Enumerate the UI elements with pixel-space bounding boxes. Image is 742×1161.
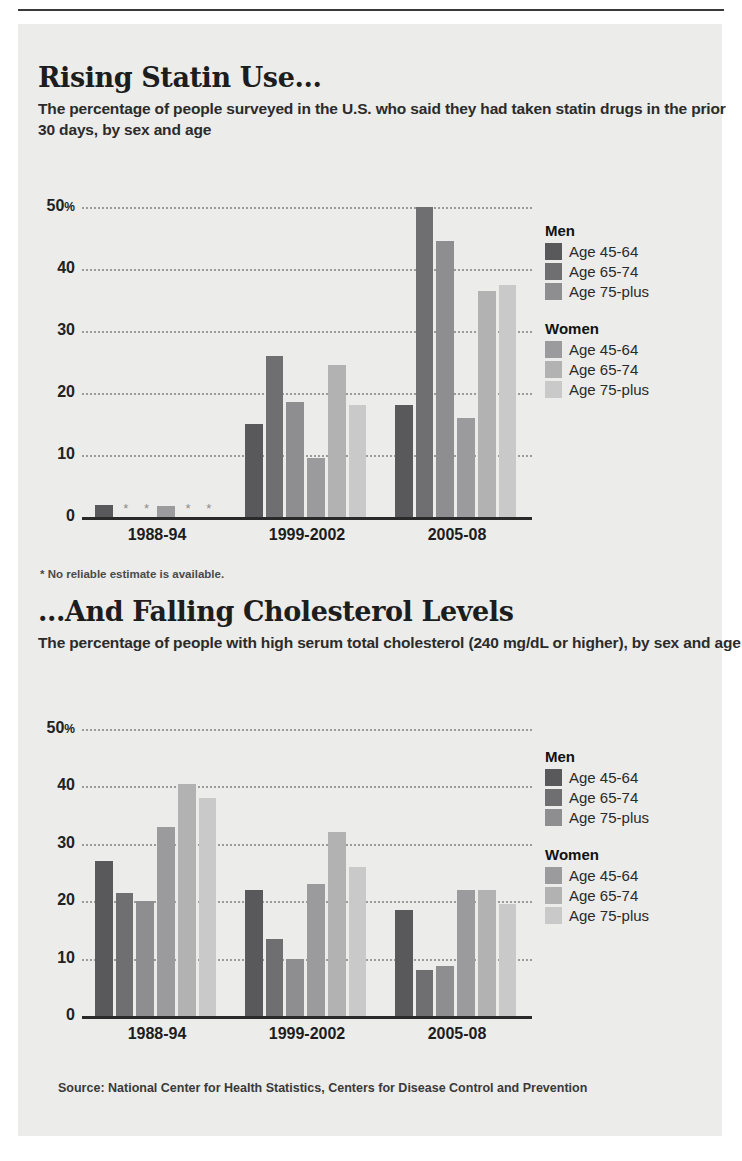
chart1-x-axis	[82, 517, 532, 520]
bar-1999-2002-men-age-75-plus	[286, 402, 304, 517]
legend-heading-women: Women	[545, 320, 649, 337]
y-axis-tick-40: 40	[57, 776, 82, 794]
y-axis-tick-0: 0	[66, 1006, 82, 1024]
legend-item-men-age-45-64[interactable]: Age 45-64	[545, 769, 649, 786]
bar-2005-08-women-age-45-64	[457, 418, 475, 517]
legend-swatch-icon	[545, 809, 562, 826]
legend-item-label: Age 65-74	[569, 263, 638, 280]
legend-item-women-age-45-64[interactable]: Age 45-64	[545, 867, 649, 884]
chart1-subtitle: The percentage of people surveyed in the…	[38, 98, 742, 141]
chart-cholesterol-levels: ...And Falling Cholesterol Levels The pe…	[38, 596, 742, 653]
bar-2005-08-women-age-65-74	[478, 890, 496, 1016]
bar-2005-08-men-age-65-74	[416, 207, 434, 517]
legend-swatch-icon	[545, 381, 562, 398]
bar-2005-08-men-age-65-74	[416, 970, 434, 1016]
x-axis-label-1999-2002: 1999-2002	[232, 1025, 382, 1043]
bar-1988-94-men-age-75-plus	[136, 901, 154, 1016]
bar-1999-2002-women-age-75-plus	[349, 867, 367, 1016]
legend-swatch-icon	[545, 867, 562, 884]
bar-2005-08-men-age-45-64	[395, 405, 413, 517]
x-axis-label-1999-2002: 1999-2002	[232, 526, 382, 544]
x-axis-label-2005-08: 2005-08	[382, 1025, 532, 1043]
bar-1999-2002-women-age-45-64	[307, 458, 325, 517]
legend-item-label: Age 45-64	[569, 867, 638, 884]
bar-2005-08-men-age-45-64	[395, 910, 413, 1016]
bar-1999-2002-men-age-45-64	[245, 890, 263, 1016]
bar-1999-2002-men-age-65-74	[266, 939, 284, 1016]
legend-item-label: Age 65-74	[569, 887, 638, 904]
legend-swatch-icon	[545, 263, 562, 280]
legend-swatch-icon	[545, 283, 562, 300]
legend-group-men: MenAge 45-64Age 65-74Age 75-plus	[545, 222, 649, 300]
legend-item-men-age-75-plus[interactable]: Age 75-plus	[545, 809, 649, 826]
legend-group-women: WomenAge 45-64Age 65-74Age 75-plus	[545, 320, 649, 398]
chart1-footnote: * No reliable estimate is available.	[40, 568, 224, 580]
legend-item-men-age-65-74[interactable]: Age 65-74	[545, 263, 649, 280]
legend-item-label: Age 75-plus	[569, 283, 649, 300]
legend-item-men-age-75-plus[interactable]: Age 75-plus	[545, 283, 649, 300]
y-axis-tick-40: 40	[57, 259, 82, 277]
legend-heading-women: Women	[545, 846, 649, 863]
legend-item-women-age-75-plus[interactable]: Age 75-plus	[545, 381, 649, 398]
legend-swatch-icon	[545, 789, 562, 806]
chart-statin-use: Rising Statin Use... The percentage of p…	[38, 62, 742, 141]
bar-2005-08-women-age-65-74	[478, 291, 496, 517]
legend-swatch-icon	[545, 887, 562, 904]
y-axis-tick-20: 20	[57, 891, 82, 909]
legend-item-label: Age 65-74	[569, 789, 638, 806]
legend-item-women-age-75-plus[interactable]: Age 75-plus	[545, 907, 649, 924]
y-axis-tick-30: 30	[57, 834, 82, 852]
legend-item-men-age-65-74[interactable]: Age 65-74	[545, 789, 649, 806]
legend-item-women-age-65-74[interactable]: Age 65-74	[545, 887, 649, 904]
y-axis-tick-50: 50%	[47, 197, 82, 215]
legend-item-women-age-45-64[interactable]: Age 45-64	[545, 341, 649, 358]
legend-heading-men: Men	[545, 748, 649, 765]
x-axis-label-1988-94: 1988-94	[82, 526, 232, 544]
chart1-plot-area: 01020304050% ****	[82, 207, 532, 520]
chart1-title: Rising Statin Use...	[38, 62, 742, 93]
chart2-x-axis	[82, 1016, 532, 1019]
chart1-legend: MenAge 45-64Age 65-74Age 75-plusWomenAge…	[545, 222, 649, 401]
legend-swatch-icon	[545, 769, 562, 786]
legend-swatch-icon	[545, 907, 562, 924]
legend-item-label: Age 75-plus	[569, 809, 649, 826]
chart2-subtitle: The percentage of people with high serum…	[38, 632, 742, 653]
bar-1999-2002-men-age-45-64	[245, 424, 263, 517]
legend-item-women-age-65-74[interactable]: Age 65-74	[545, 361, 649, 378]
legend-item-men-age-45-64[interactable]: Age 45-64	[545, 243, 649, 260]
bar-1988-94-women-age-45-64	[157, 827, 175, 1016]
bar-1988-94-women-age-45-64	[157, 506, 175, 517]
chart2-legend: MenAge 45-64Age 65-74Age 75-plusWomenAge…	[545, 748, 649, 927]
missing-estimate-marker: *	[199, 502, 220, 515]
bar-1999-2002-men-age-75-plus	[286, 959, 304, 1016]
bar-1988-94-women-age-65-74	[178, 784, 196, 1016]
legend-item-label: Age 75-plus	[569, 381, 649, 398]
x-axis-label-2005-08: 2005-08	[382, 526, 532, 544]
legend-swatch-icon	[545, 243, 562, 260]
bar-1999-2002-women-age-65-74	[328, 832, 346, 1016]
legend-group-men: MenAge 45-64Age 65-74Age 75-plus	[545, 748, 649, 826]
chart2-source: Source: National Center for Health Stati…	[58, 1081, 587, 1095]
y-axis-tick-30: 30	[57, 321, 82, 339]
chart2-title: ...And Falling Cholesterol Levels	[38, 596, 742, 627]
bar-1999-2002-women-age-65-74	[328, 365, 346, 517]
legend-swatch-icon	[545, 361, 562, 378]
bar-1999-2002-men-age-65-74	[266, 356, 284, 517]
bar-1988-94-men-age-45-64	[95, 861, 113, 1016]
y-axis-tick-20: 20	[57, 383, 82, 401]
chart2-bars	[82, 729, 532, 1016]
legend-group-women: WomenAge 45-64Age 65-74Age 75-plus	[545, 846, 649, 924]
legend-swatch-icon	[545, 341, 562, 358]
y-axis-tick-50: 50%	[47, 719, 82, 737]
chart1-bars: ****	[82, 207, 532, 517]
missing-estimate-marker: *	[136, 502, 157, 515]
bar-2005-08-men-age-75-plus	[436, 241, 454, 517]
top-rule-divider	[18, 9, 724, 11]
legend-item-label: Age 65-74	[569, 361, 638, 378]
bar-2005-08-women-age-75-plus	[499, 285, 517, 518]
legend-heading-men: Men	[545, 222, 649, 239]
bar-1999-2002-women-age-45-64	[307, 884, 325, 1016]
chart2-plot-area: 01020304050%	[82, 729, 532, 1019]
y-axis-tick-0: 0	[66, 507, 82, 525]
